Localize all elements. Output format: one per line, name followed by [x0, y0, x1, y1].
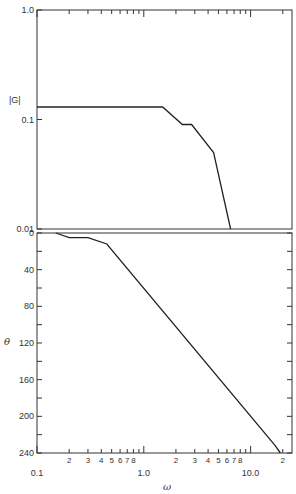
phase-tick-label: 0 — [29, 228, 34, 238]
x-decade-label: 0.1 — [31, 468, 44, 478]
x-minor-label: 8 — [238, 456, 243, 465]
x-minor-label: 6 — [225, 456, 230, 465]
x-minor-label: 2 — [174, 456, 179, 465]
phase-tick-label: 40 — [24, 265, 34, 275]
phase-tick-label: 120 — [19, 338, 34, 348]
x-minor-label: 8 — [131, 456, 136, 465]
phase-y-ticks: 04080120160200240 — [19, 228, 292, 458]
mag-tick-label: 1.0 — [21, 5, 34, 15]
x-minor-label: 2 — [67, 456, 72, 465]
phase-tick-label: 160 — [19, 375, 34, 385]
x-minor-label: 4 — [99, 456, 104, 465]
mag-tick-label: 0.1 — [21, 115, 34, 125]
magnitude-curve — [37, 107, 231, 229]
bode-plot: 1.00.10.01 04080120160200240 23456780.12… — [0, 0, 296, 494]
x-axis-label: ω — [163, 481, 171, 492]
x-minor-label: 6 — [118, 456, 123, 465]
magnitude-axis-label: |G| — [9, 95, 21, 105]
phase-axis-label: θ — [4, 336, 10, 347]
x-decade-label: 10.0 — [242, 468, 260, 478]
magnitude-y-ticks: 1.00.10.01 — [16, 5, 42, 234]
phase-curve — [56, 233, 281, 453]
x-minor-label: 3 — [193, 456, 198, 465]
x-minor-label: 3 — [86, 456, 91, 465]
phase-tick-label: 80 — [24, 301, 34, 311]
x-minor-label: 5 — [109, 456, 114, 465]
x-minor-label: 7 — [125, 456, 130, 465]
x-decade-label: 1.0 — [138, 468, 151, 478]
phase-tick-label: 240 — [19, 448, 34, 458]
phase-tick-label: 200 — [19, 411, 34, 421]
x-minor-label: 4 — [206, 456, 211, 465]
x-minor-label: 7 — [232, 456, 237, 465]
x-minor-label: 2 — [281, 456, 286, 465]
x-minor-label: 5 — [216, 456, 221, 465]
magnitude-plot-frame — [37, 10, 292, 229]
x-axis-ticks: 23456780.123456781.0210.0 — [31, 10, 286, 478]
